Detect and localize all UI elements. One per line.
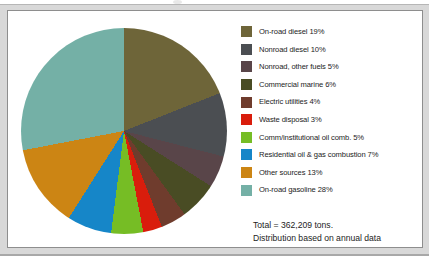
chart-footnote: Total = 362,209 tons. Distribution based… xyxy=(253,219,423,244)
legend-color-swatch xyxy=(241,61,252,72)
legend-item-label: Comm/institutional oil comb. 5% xyxy=(259,134,364,142)
legend-item-label: On-road diesel 19% xyxy=(259,28,324,36)
legend-item-label: Nonroad diesel 10% xyxy=(259,46,326,54)
figure-plot-area: On-road diesel 19%Nonroad diesel 10%Nonr… xyxy=(7,10,423,248)
legend-item-label: Residential oil & gas combustion 7% xyxy=(259,151,378,159)
legend-item: Other sources 13% xyxy=(241,164,423,182)
legend-color-swatch xyxy=(241,114,252,125)
legend-color-swatch xyxy=(241,26,252,37)
figure-frame: On-road diesel 19%Nonroad diesel 10%Nonr… xyxy=(0,4,429,256)
footnote-total: Total = 362,209 tons. xyxy=(253,219,423,232)
legend-color-swatch xyxy=(241,149,252,160)
pie-slices xyxy=(21,28,227,234)
legend-item-label: Electric utilities 4% xyxy=(259,98,320,106)
legend-item: Waste disposal 3% xyxy=(241,111,423,129)
legend-color-swatch xyxy=(241,79,252,90)
footnote-distribution: Distribution based on annual data xyxy=(253,232,423,245)
pie-chart xyxy=(16,18,232,244)
legend-color-swatch xyxy=(241,132,252,143)
legend-color-swatch xyxy=(241,167,252,178)
legend-item: Nonroad, other fuels 5% xyxy=(241,58,423,76)
legend-item: Residential oil & gas combustion 7% xyxy=(241,146,423,164)
legend-color-swatch xyxy=(241,185,252,196)
legend-item-label: On-road gasoline 28% xyxy=(259,186,333,194)
chart-legend: On-road diesel 19%Nonroad diesel 10%Nonr… xyxy=(241,23,423,199)
legend-item: Nonroad diesel 10% xyxy=(241,41,423,59)
scan-artifact xyxy=(173,0,182,4)
legend-item-label: Other sources 13% xyxy=(259,169,322,177)
legend-item-label: Waste disposal 3% xyxy=(259,116,322,124)
legend-item: On-road gasoline 28% xyxy=(241,181,423,199)
legend-item: Electric utilities 4% xyxy=(241,93,423,111)
legend-item-label: Nonroad, other fuels 5% xyxy=(259,63,339,71)
legend-item: On-road diesel 19% xyxy=(241,23,423,41)
legend-item: Commercial marine 6% xyxy=(241,76,423,94)
legend-item-label: Commercial marine 6% xyxy=(259,81,336,89)
legend-color-swatch xyxy=(241,44,252,55)
legend-item: Comm/institutional oil comb. 5% xyxy=(241,129,423,147)
legend-color-swatch xyxy=(241,97,252,108)
